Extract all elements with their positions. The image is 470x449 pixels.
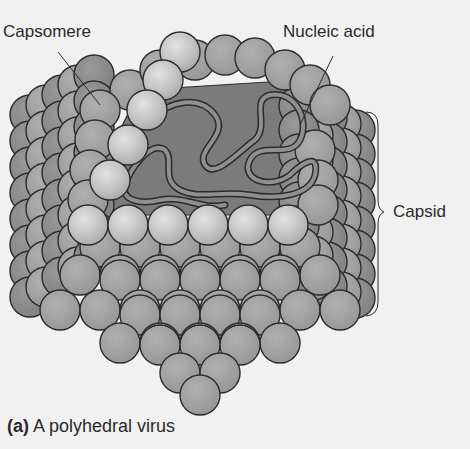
caption-letter: (a): [7, 416, 29, 436]
label-capsomere: Capsomere: [3, 22, 91, 42]
virus-illustration: [0, 0, 470, 449]
figure-canvas: Capsomere Nucleic acid Capsid (a) A poly…: [0, 0, 470, 449]
label-capsid: Capsid: [393, 202, 446, 222]
figure-caption: (a) A polyhedral virus: [7, 416, 175, 437]
label-nucleic-acid: Nucleic acid: [283, 22, 375, 42]
caption-text: A polyhedral virus: [33, 416, 175, 436]
